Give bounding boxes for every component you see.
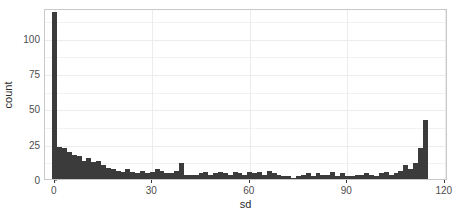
histogram-bar	[423, 120, 428, 179]
x-axis: 0306090120	[44, 180, 447, 200]
x-tick-label: 90	[341, 185, 352, 196]
x-tick-mark	[346, 180, 347, 183]
y-tick-label: 50	[29, 104, 40, 115]
histogram-chart: count 0255075100 0306090120 sd	[0, 0, 466, 216]
y-axis-title-text: count	[2, 82, 14, 109]
x-tick-mark	[151, 180, 152, 183]
x-tick-label: 0	[51, 185, 57, 196]
y-tick-label: 0	[34, 175, 40, 186]
x-tick-label: 60	[243, 185, 254, 196]
y-tick-label: 75	[29, 69, 40, 80]
x-tick-mark	[444, 180, 445, 183]
x-tick-mark	[54, 180, 55, 183]
x-axis-title: sd	[44, 198, 447, 210]
bars-layer	[45, 10, 446, 179]
y-tick-label: 100	[23, 33, 40, 44]
y-axis-tick-labels: 0255075100	[14, 0, 40, 190]
x-axis-title-text: sd	[240, 198, 252, 210]
x-tick-label: 30	[146, 185, 157, 196]
plot-panel	[44, 9, 447, 180]
x-tick-mark	[249, 180, 250, 183]
y-tick-label: 25	[29, 139, 40, 150]
x-tick-label: 120	[435, 185, 452, 196]
